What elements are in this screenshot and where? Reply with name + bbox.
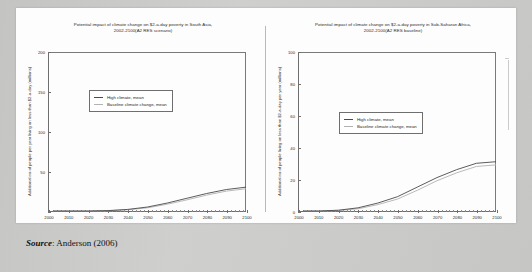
figure-panel: Potential impact of climate change on $2…	[16, 8, 516, 223]
x-tick-label: 2040	[124, 215, 133, 220]
source-separator: :	[52, 238, 55, 248]
chart-south-asia: Potential impact of climate change on $2…	[16, 8, 266, 223]
series-line	[53, 189, 246, 211]
scan-artifact	[508, 60, 509, 130]
x-tick-mark	[497, 210, 498, 213]
plot-area-south-asia: 5010015020020002010202020302040205020602…	[48, 52, 246, 212]
x-tick-label: 2070	[183, 215, 192, 220]
legend-item-baseline: Baseline climate change, mean	[94, 101, 167, 108]
chart-title-south-asia: Potential impact of climate change on $2…	[28, 22, 258, 34]
x-tick-label: 2050	[143, 215, 152, 220]
chart-title-line2: 2002-2100(A2 RES baseline)	[278, 28, 508, 34]
source-text: Anderson (2006)	[56, 238, 117, 248]
scan-artifact	[505, 58, 509, 59]
legend-label-baseline: Baseline climate change, mean	[107, 101, 167, 108]
page-background: Potential impact of climate change on $2…	[0, 0, 532, 272]
x-tick-label: 2010	[64, 215, 73, 220]
x-tick-label: 2100	[242, 215, 251, 220]
series-lines-south-asia	[49, 52, 246, 211]
x-tick-label: 2080	[453, 215, 462, 220]
x-tick-label: 2060	[163, 215, 172, 220]
legend-item-high: High climate, mean	[344, 116, 417, 123]
legend-swatch-high-icon	[94, 97, 103, 98]
x-tick-label: 2020	[84, 215, 93, 220]
x-tick-label: 2030	[104, 215, 113, 220]
y-tick-label: 0	[293, 210, 295, 215]
y-tick-label: 100	[288, 50, 295, 55]
x-tick-label: 2040	[374, 215, 383, 220]
plot-area-sub-saharan-africa: 0204060801002000201020202030204020502060…	[298, 52, 496, 212]
chart-title-line1: Potential impact of climate change on $2…	[74, 22, 213, 27]
x-tick-label: 2100	[492, 215, 501, 220]
legend-item-baseline: Baseline climate change, mean	[344, 123, 417, 130]
legend-sub-saharan-africa: High climate, mean Baseline climate chan…	[339, 112, 423, 134]
x-tick-label: 2000	[294, 215, 303, 220]
chart-title-line1: Potential impact of climate change on $2…	[315, 22, 471, 27]
y-tick-label: 20	[290, 178, 295, 183]
legend-item-high: High climate, mean	[94, 94, 167, 101]
x-tick-label: 2030	[354, 215, 363, 220]
legend-swatch-baseline-icon	[94, 104, 103, 105]
chart-title-line2: 2002-2100(A2 RES scenario)	[28, 28, 258, 34]
legend-swatch-high-icon	[344, 119, 353, 120]
x-tick-label: 2090	[223, 215, 232, 220]
legend-label-high: High climate, mean	[107, 94, 144, 101]
y-axis-label-sub-saharan-africa: Additional no of people living on less t…	[277, 46, 282, 196]
y-tick-label: 100	[38, 130, 45, 135]
x-tick-label: 2010	[314, 215, 323, 220]
series-line	[303, 165, 496, 211]
y-axis-label-south-asia: Additional no of people per year living …	[27, 46, 32, 196]
x-tick-label: 2060	[413, 215, 422, 220]
y-tick-label: 80	[290, 82, 295, 87]
chart-sub-saharan-africa: Potential impact of climate change on $2…	[266, 8, 516, 223]
x-tick-label: 2070	[433, 215, 442, 220]
y-tick-label: 200	[38, 50, 45, 55]
source-caption: Source: Anderson (2006)	[26, 238, 118, 248]
legend-swatch-baseline-icon	[344, 126, 353, 127]
x-tick-label: 2090	[473, 215, 482, 220]
x-tick-label: 2020	[334, 215, 343, 220]
x-tick-label: 2080	[203, 215, 212, 220]
chart-title-sub-saharan-africa: Potential impact of climate change on $2…	[278, 22, 508, 34]
x-tick-mark	[247, 210, 248, 213]
legend-label-high: High climate, mean	[357, 116, 394, 123]
y-tick-label: 60	[290, 114, 295, 119]
y-tick-label: 40	[290, 146, 295, 151]
legend-south-asia: High climate, mean Baseline climate chan…	[89, 90, 173, 112]
source-label: Source	[26, 238, 52, 248]
y-tick-label: 150	[38, 90, 45, 95]
legend-label-baseline: Baseline climate change, mean	[357, 123, 417, 130]
x-tick-label: 2000	[44, 215, 53, 220]
y-tick-label: 50	[40, 170, 45, 175]
x-tick-label: 2050	[393, 215, 402, 220]
